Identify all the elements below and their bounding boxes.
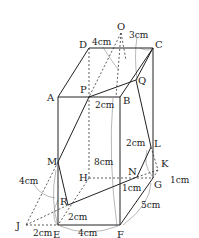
label-b: B [123,95,130,106]
edge-pm [58,97,89,162]
label-h: H [79,172,88,183]
edge-lk [151,147,158,170]
edge-bc [120,48,153,97]
dim-do: 4cm [92,37,112,47]
edge-oq [121,33,126,60]
arc-em-2 [54,200,58,225]
label-q: Q [138,75,146,86]
hidden-edges [26,33,158,225]
label-j: J [15,220,20,231]
label-p: P [80,84,87,95]
label-n: N [128,166,137,177]
geometry-diagram: O D C A P B Q L K N H G M R J E F 4cm 3c… [0,0,199,238]
dim-lg: 2cm [126,138,146,148]
label-r: R [60,196,68,207]
label-o: O [117,21,125,32]
dim-ng: 1cm [122,183,142,193]
label-g: G [154,179,162,190]
edge-nl [137,147,151,177]
dim-pb: 2cm [95,100,115,110]
label-d: D [79,39,87,50]
dim-gk: 1cm [170,175,190,185]
edge-jr [26,205,68,225]
dim-em: 4cm [19,176,39,186]
arc-lg [146,150,152,176]
label-k: K [161,158,169,169]
dimension-labels: 4cm 3cm 2cm 8cm 2cm 1cm 1cm 5cm 4cm 2cm … [19,30,190,238]
dimension-arcs [33,37,152,232]
label-l: L [154,138,161,149]
diagram-canvas: O D C A P B Q L K N H G M R J E F 4cm 3c… [0,0,199,238]
dim-ef: 4cm [78,228,98,238]
dim-bf: 8cm [94,157,114,167]
edge-ql [136,80,151,147]
label-a: A [46,92,55,103]
arc-do [103,47,119,70]
label-c: C [155,39,163,50]
label-f: F [117,229,124,238]
dim-fg: 5cm [141,200,161,210]
dim-er: 2cm [68,212,88,222]
label-e: E [53,229,60,238]
dim-je: 2cm [33,228,53,238]
label-m: M [47,156,57,167]
dim-oc: 3cm [129,30,149,40]
